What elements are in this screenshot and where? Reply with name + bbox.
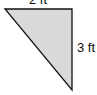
right-side-label: 3 ft [77,41,95,54]
top-side-label: 2 ft [29,0,47,6]
right-triangle [5,9,72,90]
